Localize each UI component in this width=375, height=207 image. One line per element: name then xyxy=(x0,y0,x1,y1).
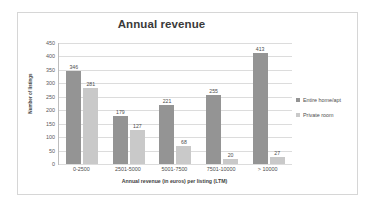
bar[interactable]: 281 xyxy=(83,88,98,164)
bar[interactable]: 413 xyxy=(253,53,268,164)
bar[interactable]: 68 xyxy=(176,146,191,164)
bar-value-label: 127 xyxy=(133,123,142,129)
y-axis-tick-label: 400 xyxy=(46,53,55,59)
bar-value-label: 20 xyxy=(228,152,234,158)
bar-group: 346281 xyxy=(59,43,106,164)
bar-value-label: 221 xyxy=(163,98,172,104)
y-axis-tick-label: 350 xyxy=(46,67,55,73)
plot-area: 450400350300250200150100500 346281179127… xyxy=(58,43,292,165)
bar-value-label: 68 xyxy=(181,139,187,145)
bar-value-label: 413 xyxy=(256,46,265,52)
chart-title-text: Annual revenue xyxy=(118,18,206,30)
bar[interactable]: 221 xyxy=(159,105,174,164)
chart-container: Annual revenue Number of listings 450400… xyxy=(17,12,358,195)
y-axis-tick-label: 100 xyxy=(46,134,55,140)
legend-item-label: Entire home/apt xyxy=(303,97,341,103)
y-axis-tick-label: 150 xyxy=(46,121,55,127)
bar[interactable]: 255 xyxy=(206,95,221,164)
bar-value-label: 179 xyxy=(116,109,125,115)
x-axis-title: Annual revenue (in euros) per listing (L… xyxy=(58,178,291,184)
bar-value-label: 255 xyxy=(209,88,218,94)
y-axis-tick-label: 200 xyxy=(46,107,55,113)
legend-swatch-icon xyxy=(296,98,300,102)
gridline xyxy=(59,164,292,165)
x-axis-tick-label: 7501-10000 xyxy=(198,166,245,172)
y-axis-tick-label: 0 xyxy=(52,161,55,167)
bar[interactable]: 27 xyxy=(270,157,285,164)
bar[interactable]: 20 xyxy=(223,159,238,164)
bar-group: 41327 xyxy=(245,43,292,164)
y-axis-tick-label: 300 xyxy=(46,80,55,86)
chart-title: Annual revenue xyxy=(18,18,357,30)
y-axis-tick-label: 450 xyxy=(46,40,55,46)
bar-group: 22168 xyxy=(152,43,199,164)
bar-group: 25520 xyxy=(199,43,246,164)
bar[interactable]: 346 xyxy=(66,71,81,164)
y-axis-tick-label: 50 xyxy=(49,148,55,154)
bar-value-label: 27 xyxy=(274,150,280,156)
legend-swatch-icon xyxy=(296,113,300,117)
x-axis-tick-label: > 10000 xyxy=(244,166,291,172)
bar-group: 179127 xyxy=(106,43,153,164)
chart-legend: Entire home/aptPrivate room xyxy=(296,97,341,118)
bar[interactable]: 127 xyxy=(130,130,145,164)
bar-value-label: 281 xyxy=(86,81,95,87)
x-axis-tick-labels: 0-25002501-50005001-75007501-10000> 1000… xyxy=(58,166,291,172)
legend-item-label: Private room xyxy=(303,112,334,118)
bars-layer: 346281179127221682552041327 xyxy=(59,43,292,164)
y-axis-title: Number of listings xyxy=(28,61,33,127)
legend-item[interactable]: Private room xyxy=(296,112,341,118)
legend-item[interactable]: Entire home/apt xyxy=(296,97,341,103)
x-axis-tick-label: 5001-7500 xyxy=(151,166,198,172)
x-axis-tick-label: 2501-5000 xyxy=(105,166,152,172)
y-axis-tick-label: 250 xyxy=(46,94,55,100)
bar[interactable]: 179 xyxy=(113,116,128,164)
bar-value-label: 346 xyxy=(69,64,78,70)
x-axis-tick-label: 0-2500 xyxy=(58,166,105,172)
